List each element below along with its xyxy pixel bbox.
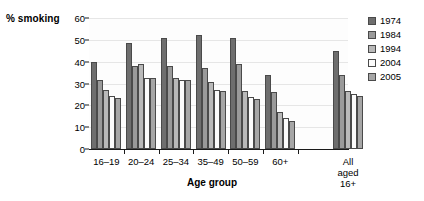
bar [357,96,363,149]
y-axis-tick-mark [85,39,89,40]
bar [150,78,156,149]
legend: 19741984199420042005 [368,14,401,84]
y-axis-tick-label: 50 [74,34,85,45]
smoking-by-age-bar-chart: % smoking 0102030405060 16–1920–2425–343… [0,0,424,201]
legend-item[interactable]: 2005 [368,70,401,83]
y-axis-title: % smoking [6,13,60,24]
legend-label: 1994 [380,44,401,54]
legend-label: 1984 [380,30,401,40]
y-axis-tick-label: 40 [74,56,85,67]
x-axis-tick-mark [298,149,299,154]
x-axis-tick-label: 35–49 [197,156,223,167]
x-axis-title: Age group [132,177,292,188]
x-axis-tick-label: 20–24 [128,156,154,167]
bar-group [265,18,295,149]
legend-item[interactable]: 1994 [368,42,401,55]
bar [289,121,295,149]
x-axis-tick-mark [193,149,194,154]
legend-swatch-icon [368,73,376,81]
x-axis-tick-label: 25–34 [163,156,189,167]
y-axis-tick-mark [85,83,89,84]
bar-group [161,18,191,149]
x-axis-tick-mark [159,149,160,154]
x-axis-tick-mark [263,149,264,154]
x-axis-line [89,149,349,150]
bar [185,80,191,149]
y-axis-tick-mark [85,61,89,62]
bar-group [333,18,363,149]
x-axis-tick-mark [228,149,229,154]
legend-swatch-icon [368,31,376,39]
legend-label: 2004 [380,58,401,68]
legend-swatch-icon [368,17,376,25]
legend-swatch-icon [368,45,376,53]
x-axis-tick-label: All aged 16+ [331,156,365,189]
y-axis-tick-label: 30 [74,78,85,89]
legend-swatch-icon [368,59,376,67]
y-axis-tick-label: 60 [74,13,85,24]
legend-label: 2005 [380,72,401,82]
y-axis-tick-label: 20 [74,100,85,111]
x-axis-tick-label: 60+ [272,156,288,167]
legend-item[interactable]: 2004 [368,56,401,69]
legend-item[interactable]: 1984 [368,28,401,41]
bar [254,99,260,149]
y-axis-tick-mark [85,18,89,19]
bar-group [126,18,156,149]
legend-label: 1974 [380,16,401,26]
x-axis-tick-label: 16–19 [93,156,119,167]
y-axis-tick-mark [85,127,89,128]
bar [115,98,121,149]
bar-group [91,18,121,149]
bar-group [196,18,226,149]
y-axis-tick-label: 10 [74,122,85,133]
bar [220,91,226,149]
y-axis-tick-mark [85,105,89,106]
bar-group [230,18,260,149]
x-axis-tick-label: 50–59 [232,156,258,167]
x-axis-tick-mark [124,149,125,154]
y-axis-tick-labels: 0102030405060 [55,0,85,201]
y-axis-tick-mark [85,149,89,150]
bar-groups [89,18,348,149]
legend-item[interactable]: 1974 [368,14,401,27]
plot-area [89,18,348,149]
